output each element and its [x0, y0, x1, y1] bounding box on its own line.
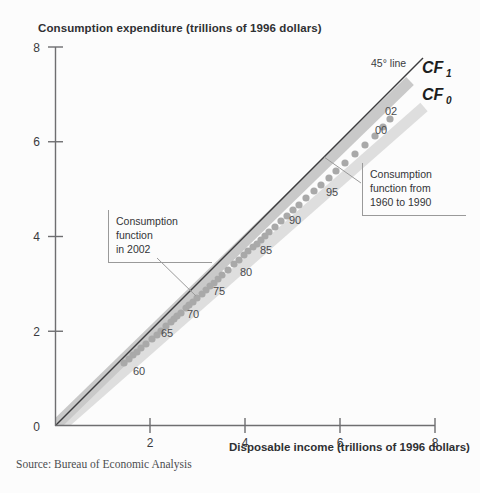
data-point: [351, 150, 358, 157]
point-label-70: 70: [187, 308, 199, 320]
figure-page: Consumption expenditure (trillions of 19…: [0, 0, 480, 493]
data-point: [277, 217, 284, 224]
cf0-subscript: 0: [446, 95, 452, 106]
annotation-consumption-function-2002: Consumption function in 2002: [108, 210, 212, 263]
point-label-75: 75: [213, 285, 225, 297]
point-label-85: 85: [260, 244, 272, 256]
y-tick-label: 6: [33, 135, 40, 149]
data-point: [224, 266, 231, 273]
data-point: [271, 223, 278, 230]
data-point: [295, 201, 302, 208]
annotation-consumption-function-1960-1990: Consumption function from 1960 to 1990: [362, 163, 466, 216]
point-label-02: 02: [385, 105, 397, 117]
cf0-label-group: CF 0: [422, 86, 452, 106]
cf1-label: CF: [422, 59, 445, 76]
x-axis-title: Disposable income (trillions of 1996 dol…: [229, 441, 470, 453]
y-tick-label: 2: [33, 325, 40, 339]
data-point: [302, 194, 309, 201]
data-point: [142, 340, 149, 347]
data-point: [218, 271, 225, 278]
data-point: [325, 174, 332, 181]
data-point: [317, 181, 324, 188]
point-label-65: 65: [161, 327, 173, 339]
point-label-90: 90: [289, 214, 301, 226]
chart-plot-area: 60 65 70 75 80 85 90 95 00 02 45° line C…: [0, 0, 480, 460]
point-label-80: 80: [240, 266, 252, 278]
chart-figure: Consumption expenditure (trillions of 19…: [0, 0, 480, 460]
data-point: [289, 206, 296, 213]
cf0-label: CF: [422, 86, 445, 103]
data-point: [361, 141, 368, 148]
cf1-label-group: CF 1: [422, 59, 452, 79]
y-tick-label: 0: [33, 420, 40, 434]
point-label-60: 60: [133, 365, 145, 377]
y-tick-label: 8: [33, 41, 40, 55]
data-point: [265, 228, 272, 235]
point-label-00: 00: [375, 124, 387, 136]
data-point: [332, 167, 339, 174]
x-tick-label: 2: [147, 436, 154, 450]
data-point: [341, 159, 348, 166]
y-axis: 8 6 4 2 0: [33, 41, 63, 434]
annotation-left-leader: [157, 258, 196, 296]
y-tick-label: 4: [33, 230, 40, 244]
forty-five-degree-label: 45° line: [371, 57, 406, 69]
source-note: Source: Bureau of Economic Analysis: [16, 458, 192, 470]
point-label-95: 95: [326, 186, 338, 198]
data-point: [310, 187, 317, 194]
cf1-subscript: 1: [446, 68, 452, 79]
